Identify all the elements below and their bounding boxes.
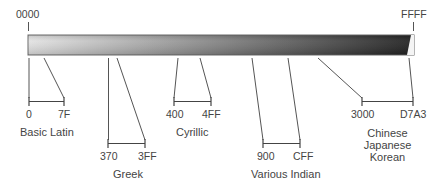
- bar-start-label: 0000: [16, 8, 40, 20]
- range-end-label: 4FF: [202, 108, 221, 120]
- range-cyrillic: 400 4FF Cyrillic: [166, 108, 221, 138]
- range-start-label: 900: [257, 150, 275, 162]
- range-name: Greek: [113, 168, 143, 180]
- range-greek: 370 3FF Greek: [100, 150, 157, 180]
- range-name-line-2: Japanese: [364, 139, 412, 151]
- range-start-label: 3000: [351, 108, 375, 120]
- range-name-line-1: Chinese: [367, 127, 407, 139]
- range-end-label: CFF: [293, 150, 313, 162]
- range-name: Various Indian: [251, 168, 321, 180]
- range-start-label: 400: [166, 108, 184, 120]
- range-name: Cyrillic: [176, 126, 209, 138]
- range-cjk: 3000 D7A3 Chinese Japanese Korean: [351, 108, 426, 163]
- unicode-range-diagram: 0000 FFFF: [0, 0, 439, 187]
- range-basic-latin: 0 7F Basic Latin: [20, 108, 74, 138]
- connector-lines: [29, 58, 413, 140]
- range-various-indian: 900 CFF Various Indian: [251, 150, 321, 180]
- range-start-label: 370: [100, 150, 118, 162]
- range-end-label: 7F: [58, 108, 70, 120]
- codepoint-bar: [28, 35, 414, 55]
- range-start-label: 0: [26, 108, 32, 120]
- range-end-label: D7A3: [400, 108, 426, 120]
- bar-end-label: FFFF: [401, 8, 427, 20]
- range-end-label: 3FF: [138, 150, 157, 162]
- range-name: Basic Latin: [20, 126, 74, 138]
- range-name-line-3: Korean: [370, 151, 405, 163]
- range-brackets: [29, 97, 413, 148]
